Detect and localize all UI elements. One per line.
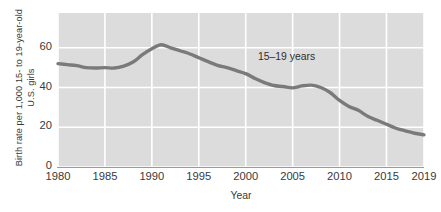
x-axis-title: Year — [58, 190, 424, 201]
x-tick-label: 1980 — [36, 170, 80, 182]
x-tick-label: 2000 — [224, 170, 268, 182]
x-tick-label: 2005 — [271, 170, 315, 182]
x-tick-label: 1985 — [83, 170, 127, 182]
x-axis-tick-labels: 198019851990199520002005201020152019 — [0, 170, 436, 188]
plot-background — [58, 13, 424, 167]
x-tick-label: 1990 — [130, 170, 174, 182]
series-annotation-15-19-years: 15–19 years — [258, 51, 315, 62]
x-tick-label: 2019 — [402, 170, 441, 182]
x-tick-label: 1995 — [177, 170, 221, 182]
x-tick-label: 2010 — [318, 170, 362, 182]
